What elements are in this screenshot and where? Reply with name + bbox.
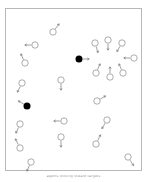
agent-circle-icon: [92, 40, 98, 46]
agent-circle-icon: [28, 159, 34, 165]
follower-agent: [25, 42, 38, 48]
follower-agent: [21, 54, 29, 66]
agent-circle-icon: [58, 134, 64, 140]
follower-agent: [124, 55, 137, 61]
agent-diagram: [0, 0, 147, 182]
agent-circle-icon: [107, 74, 113, 80]
agent-circle-icon: [105, 37, 111, 43]
follower-agent: [93, 64, 101, 76]
agent-circle-icon: [120, 70, 126, 76]
follower-agent: [15, 139, 23, 151]
agent-circle-icon: [17, 145, 23, 151]
agent-circle-icon: [58, 77, 64, 83]
follower-agent: [102, 117, 110, 129]
follower-agent: [17, 80, 25, 92]
agent-circle-icon: [131, 55, 137, 61]
leader-agent: [76, 56, 90, 63]
leader-agent: [18, 101, 30, 110]
leader-dot-icon: [76, 56, 83, 63]
agent-circle-icon: [50, 29, 56, 35]
leader-dot-icon: [24, 103, 31, 110]
agent-circle-icon: [32, 42, 38, 48]
figure-caption: agents moving toward targets: [0, 174, 147, 178]
agent-circle-icon: [17, 121, 23, 127]
follower-agent: [58, 77, 64, 90]
follower-agent: [58, 134, 64, 147]
follower-agent: [50, 24, 59, 35]
agent-circle-icon: [94, 98, 100, 104]
follower-agent: [27, 159, 35, 171]
follower-agent: [16, 121, 24, 133]
agent-circle-icon: [125, 154, 131, 160]
agent-circle-icon: [93, 141, 99, 147]
agent-circle-icon: [119, 40, 125, 46]
follower-agent: [54, 118, 67, 124]
follower-agent: [107, 67, 113, 80]
follower-agent: [93, 135, 101, 147]
follower-agent: [125, 154, 134, 166]
agent-circle-icon: [93, 70, 99, 76]
agent-circle-icon: [104, 117, 110, 123]
agent-circle-icon: [22, 60, 28, 66]
follower-agent: [117, 40, 125, 52]
follower-agent: [105, 37, 111, 50]
follower-agent: [92, 40, 99, 53]
follower-agent: [94, 96, 106, 104]
follower-agent: [119, 64, 127, 76]
agent-circle-icon: [19, 80, 25, 86]
agent-circle-icon: [61, 118, 67, 124]
